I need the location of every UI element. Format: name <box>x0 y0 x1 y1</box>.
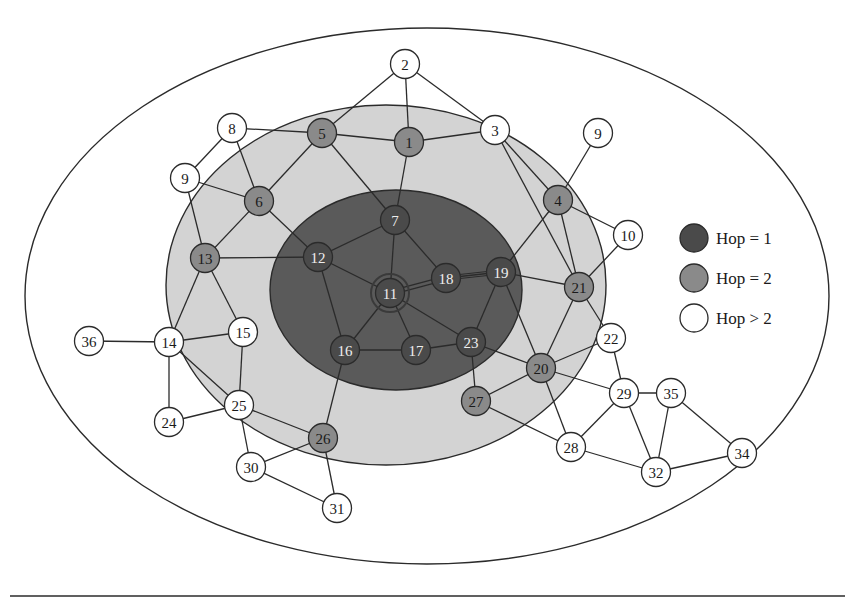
node-17: 17 <box>402 336 431 365</box>
node-1: 1 <box>395 128 424 157</box>
node-label: 15 <box>236 325 251 341</box>
node-label: 22 <box>604 331 619 347</box>
node-32: 32 <box>642 458 671 487</box>
node-9: 9 <box>171 164 200 193</box>
legend: Hop = 1Hop = 2Hop > 2 <box>680 224 772 332</box>
node-label: 24 <box>162 415 178 431</box>
node-label: 12 <box>311 250 326 266</box>
node-23: 23 <box>457 328 486 357</box>
node-35: 35 <box>657 379 686 408</box>
node-28: 28 <box>557 433 586 462</box>
hop-network-diagram: 1234567899101112131415161718192021222324… <box>0 0 850 601</box>
node-label: 9 <box>594 126 602 142</box>
node-label: 35 <box>664 386 679 402</box>
node-label: 32 <box>649 465 664 481</box>
hop-regions <box>25 28 829 564</box>
node-16: 16 <box>331 336 360 365</box>
node-label: 28 <box>564 440 579 456</box>
node-6: 6 <box>245 187 274 216</box>
node-label: 19 <box>494 265 509 281</box>
node-label: 3 <box>491 123 499 139</box>
node-2: 2 <box>391 50 420 79</box>
node-22: 22 <box>597 324 626 353</box>
node-36: 36 <box>75 327 104 356</box>
node-34: 34 <box>728 439 757 468</box>
node-label: 6 <box>255 194 263 210</box>
legend-swatch <box>680 264 708 292</box>
node-label: 5 <box>318 126 326 142</box>
node-3: 3 <box>481 116 510 145</box>
node-27: 27 <box>462 387 491 416</box>
legend-label: Hop = 2 <box>716 269 772 288</box>
node-29: 29 <box>610 379 639 408</box>
node-label: 25 <box>232 398 247 414</box>
node-label: 29 <box>617 386 632 402</box>
node-24: 24 <box>155 408 184 437</box>
node-label: 36 <box>82 334 98 350</box>
legend-label: Hop > 2 <box>716 309 772 328</box>
node-4: 4 <box>544 186 573 215</box>
node-label: 7 <box>391 213 399 229</box>
node-label: 27 <box>469 394 485 410</box>
node-label: 8 <box>228 121 236 137</box>
node-11: 11 <box>371 274 409 312</box>
node-8: 8 <box>218 114 247 143</box>
node-label: 1 <box>405 135 413 151</box>
node-label: 20 <box>534 361 549 377</box>
node-26: 26 <box>309 424 338 453</box>
node-18: 18 <box>432 264 461 293</box>
legend-swatch <box>680 304 708 332</box>
node-label: 21 <box>572 280 587 296</box>
node-label: 31 <box>330 501 345 517</box>
node-label: 26 <box>316 431 332 447</box>
node-21: 21 <box>565 273 594 302</box>
node-31: 31 <box>323 494 352 523</box>
node-label: 10 <box>621 228 636 244</box>
node-25: 25 <box>225 391 254 420</box>
node-5: 5 <box>308 119 337 148</box>
node-label: 14 <box>162 335 178 351</box>
node-label: 16 <box>338 343 354 359</box>
node-10: 10 <box>614 221 643 250</box>
node-15: 15 <box>229 318 258 347</box>
node-12: 12 <box>304 243 333 272</box>
node-9: 9 <box>584 119 613 148</box>
node-14: 14 <box>155 328 184 357</box>
node-label: 13 <box>198 251 213 267</box>
node-20: 20 <box>527 354 556 383</box>
node-label: 17 <box>409 343 425 359</box>
legend-swatch <box>680 224 708 252</box>
node-7: 7 <box>381 206 410 235</box>
node-13: 13 <box>191 244 220 273</box>
node-label: 30 <box>244 460 259 476</box>
node-label: 34 <box>735 446 751 462</box>
node-19: 19 <box>487 258 516 287</box>
node-label: 9 <box>181 171 189 187</box>
node-label: 11 <box>383 286 397 302</box>
node-label: 18 <box>439 271 454 287</box>
node-label: 2 <box>401 57 409 73</box>
node-label: 23 <box>464 335 479 351</box>
node-30: 30 <box>237 453 266 482</box>
legend-label: Hop = 1 <box>716 229 772 248</box>
node-label: 4 <box>554 193 562 209</box>
